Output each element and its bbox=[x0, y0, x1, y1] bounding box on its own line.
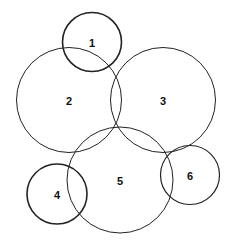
circle-1-label: 1 bbox=[89, 37, 95, 49]
circle-5-label: 5 bbox=[117, 175, 123, 187]
circle-2: 2 bbox=[17, 48, 122, 153]
circle-4: 4 bbox=[27, 164, 87, 224]
circle-4-label: 4 bbox=[54, 189, 61, 201]
circle-6: 6 bbox=[161, 146, 220, 205]
circle-3-label: 3 bbox=[160, 95, 166, 107]
circle-1: 1 bbox=[63, 13, 122, 72]
circle-diagram: 1 2 3 4 5 6 bbox=[0, 0, 232, 244]
circle-2-label: 2 bbox=[66, 95, 72, 107]
circle-3: 3 bbox=[111, 48, 216, 153]
circle-6-label: 6 bbox=[187, 170, 193, 182]
